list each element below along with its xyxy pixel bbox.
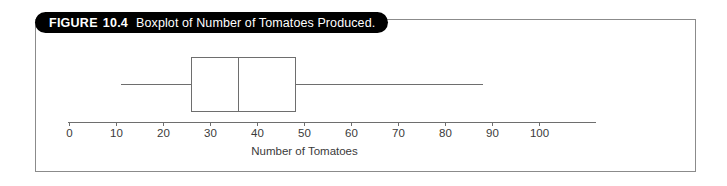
x-axis-title: Number of Tomatoes xyxy=(251,145,358,157)
figure-container: FIGURE 10.4 Boxplot of Number of Tomatoe… xyxy=(0,0,727,186)
figure-number: 10.4 xyxy=(103,16,128,30)
boxplot-box xyxy=(192,58,295,112)
x-axis-tick-label-20: 20 xyxy=(157,127,170,139)
figure-caption: Boxplot of Number of Tomatoes Produced. xyxy=(136,16,375,30)
x-axis-tick-label-50: 50 xyxy=(298,127,311,139)
figure-title-banner: FIGURE 10.4 Boxplot of Number of Tomatoe… xyxy=(35,12,388,33)
x-axis-tick-label-70: 70 xyxy=(392,127,405,139)
x-axis-tick-label-0: 0 xyxy=(66,127,72,139)
x-axis-tick-label-10: 10 xyxy=(110,127,123,139)
x-axis-tick-label-80: 80 xyxy=(439,127,452,139)
x-axis-tick-label-60: 60 xyxy=(345,127,358,139)
x-axis-tick-label-30: 30 xyxy=(204,127,217,139)
x-axis xyxy=(68,123,596,126)
figure-label: FIGURE xyxy=(49,16,98,30)
boxplot-glyph xyxy=(121,58,483,112)
x-axis-tick-label-90: 90 xyxy=(486,127,499,139)
x-axis-tick-label-100: 100 xyxy=(530,127,549,139)
x-axis-tick-label-40: 40 xyxy=(251,127,264,139)
